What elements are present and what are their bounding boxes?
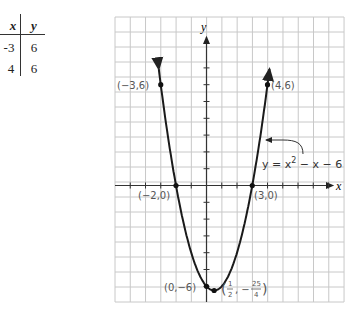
parabola-graph: y = x2 − x − 6 y x (−3,6) (4,6) (−2,0) (… bbox=[0, 0, 354, 314]
svg-text:): ) bbox=[262, 281, 267, 297]
svg-text:25: 25 bbox=[252, 280, 261, 288]
svg-text:2: 2 bbox=[228, 291, 232, 299]
svg-text:1: 1 bbox=[228, 280, 232, 288]
svg-text:4: 4 bbox=[254, 291, 259, 299]
point-label-neg2-0: (−2,0) bbox=[138, 190, 170, 201]
point-label-neg3-6: (−3,6) bbox=[117, 80, 149, 91]
labeled-points bbox=[158, 82, 270, 293]
equation-label: y = x2 − x − 6 bbox=[262, 156, 342, 171]
vertex-label: ( 1 2 , − 25 4 ) bbox=[221, 280, 267, 299]
point-label-4-6: (4,6) bbox=[271, 80, 295, 91]
y-axis-label: y bbox=[200, 20, 207, 34]
svg-text:(: ( bbox=[221, 281, 226, 297]
x-axis-label: x bbox=[335, 179, 342, 193]
svg-text:, −: , − bbox=[235, 284, 250, 295]
point-label-3-0: (3,0) bbox=[254, 190, 278, 201]
point-label-0-neg6: (0,−6) bbox=[164, 282, 196, 293]
